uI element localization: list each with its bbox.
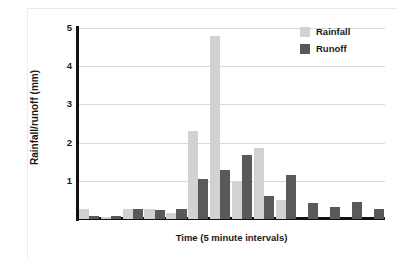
- bar-group: [210, 28, 232, 219]
- chart-figure: 12345 Rainfall/runoff (mm) Time (5 minut…: [0, 0, 397, 265]
- bar-rainfall: [79, 209, 89, 219]
- bar-runoff: [111, 216, 121, 219]
- bar-group: [275, 28, 297, 219]
- x-axis-title: Time (5 minute intervals): [78, 232, 385, 243]
- bar-rainfall: [166, 213, 176, 219]
- bar-group: [319, 28, 341, 219]
- bar-rainfall: [232, 182, 242, 219]
- bar-group: [232, 28, 254, 219]
- y-tick-label-2: 2: [67, 138, 72, 148]
- legend-label: Runoff: [316, 44, 347, 54]
- bar-runoff: [176, 209, 186, 219]
- bar-rainfall: [210, 36, 220, 219]
- bar-runoff: [89, 216, 99, 219]
- bar-rainfall: [123, 209, 133, 219]
- bar-rainfall: [276, 200, 286, 219]
- bar-groups: [78, 28, 385, 219]
- bar-runoff: [155, 210, 165, 219]
- bar-runoff: [242, 155, 252, 219]
- bar-runoff: [374, 209, 384, 219]
- bar-runoff: [308, 203, 318, 219]
- bar-runoff: [220, 170, 230, 219]
- page-rule-top: [27, 8, 397, 9]
- bar-rainfall: [144, 209, 154, 219]
- y-tick-label-5: 5: [67, 23, 72, 33]
- chart-legend: RainfallRunoff: [300, 27, 350, 54]
- y-tick-label-4: 4: [67, 61, 72, 71]
- legend-item-runoff: Runoff: [300, 44, 350, 54]
- legend-item-rainfall: Rainfall: [300, 27, 350, 37]
- y-axis-title-wrap: Rainfall/runoff (mm): [14, 60, 34, 200]
- bar-group: [78, 28, 100, 219]
- bar-group: [144, 28, 166, 219]
- legend-label: Rainfall: [316, 27, 350, 37]
- bar-rainfall: [101, 217, 111, 219]
- y-tick-label-1: 1: [67, 176, 72, 186]
- bar-group: [363, 28, 385, 219]
- bar-runoff: [352, 202, 362, 219]
- plot-area: [78, 28, 385, 219]
- legend-swatch-icon: [300, 44, 310, 54]
- bar-runoff: [286, 175, 296, 219]
- y-tick-label-3: 3: [67, 100, 72, 110]
- bar-group: [122, 28, 144, 219]
- bar-runoff: [198, 179, 208, 219]
- bar-runoff: [264, 196, 274, 219]
- bar-rainfall: [188, 131, 198, 219]
- bar-rainfall: [254, 148, 264, 219]
- legend-swatch-icon: [300, 27, 310, 37]
- bar-runoff: [330, 207, 340, 219]
- bar-group: [166, 28, 188, 219]
- bar-group: [188, 28, 210, 219]
- bar-group: [297, 28, 319, 219]
- bar-group: [100, 28, 122, 219]
- y-axis-title: Rainfall/runoff (mm): [29, 38, 40, 198]
- bar-runoff: [133, 209, 143, 219]
- bar-group: [253, 28, 275, 219]
- bar-group: [341, 28, 363, 219]
- y-axis-tick-labels: 12345: [56, 0, 72, 265]
